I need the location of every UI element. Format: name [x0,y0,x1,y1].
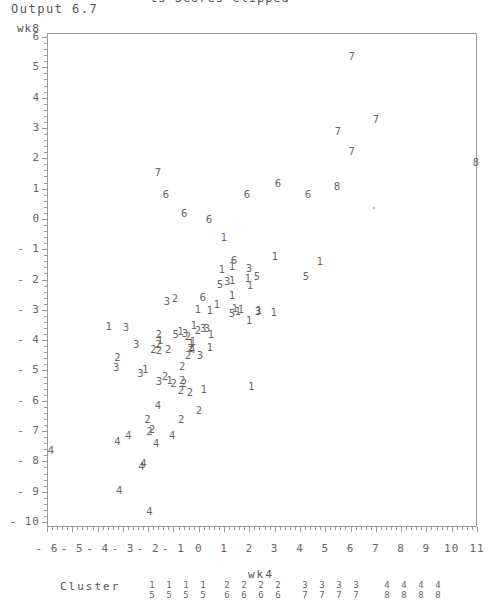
data-point: 1 [271,308,277,318]
y-minor-tick [44,383,47,384]
data-point: 8 [334,182,340,192]
x-minor-tick [118,527,119,530]
y-minor-tick [44,219,47,220]
y-minor-tick [44,407,47,408]
y-minor-tick [44,334,47,335]
x-minor-tick [421,527,422,530]
data-point: 2 [165,345,171,355]
x-minor-tick [386,527,387,530]
data-point: 1 [229,262,235,272]
x-minor-tick [163,527,164,530]
x-minor-tick [148,527,149,530]
y-tick-label: 2 [4,151,40,164]
x-minor-tick [72,527,73,530]
x-minor-tick [462,527,463,530]
data-point: 1 [229,291,235,301]
y-tick-label: - 4 [4,333,40,346]
y-minor-tick [44,322,47,323]
y-minor-tick [44,280,47,281]
data-point: 7 [335,127,341,137]
y-tick-label: - 3 [4,303,40,316]
data-point: 4 [138,462,144,472]
legend-entry: 37 [335,580,343,600]
y-minor-tick [44,110,47,111]
data-point: 1 [201,385,207,395]
x-tick-label: 0 [195,542,203,555]
data-point: 1 [248,382,254,392]
y-minor-tick [44,92,47,93]
x-minor-tick [340,527,341,530]
x-tick-label: - 1 [162,542,185,555]
data-point: 1 [246,316,252,326]
data-point: 6 [181,209,187,219]
x-tick-label: 6 [347,542,355,555]
y-minor-tick [44,140,47,141]
legend-entry-bottom: 6 [274,590,282,600]
y-tick-label: - 2 [4,273,40,286]
y-minor-tick [44,49,47,50]
y-minor-tick [44,267,47,268]
x-minor-tick [477,527,478,530]
output-label: Output 6.7 [11,2,98,16]
legend-entry-bottom: 7 [335,590,343,600]
data-point: 1 [142,365,148,375]
legend-entry-top: 4 [417,580,425,590]
data-point: 4 [116,486,122,496]
data-point: 2 [179,362,185,372]
y-minor-tick [44,425,47,426]
y-minor-tick [44,273,47,274]
y-tick-label: 0 [4,212,40,225]
x-minor-tick [224,527,225,530]
x-minor-tick [254,527,255,530]
data-point: 2 [171,379,177,389]
y-minor-tick [44,249,47,250]
data-point: 5 [217,280,223,290]
x-minor-tick [244,527,245,530]
x-tick-label: - 5 [61,542,84,555]
y-minor-tick [44,370,47,371]
legend-entry-bottom: 7 [352,590,360,600]
data-point: 1 [208,330,214,340]
x-tick-label: - 6 [36,542,59,555]
x-tick-label: 10 [444,542,459,555]
y-minor-tick [44,225,47,226]
x-minor-tick [138,527,139,530]
x-minor-tick [300,527,301,530]
y-minor-tick [44,231,47,232]
legend-entry: 48 [383,580,391,600]
data-point: 2 [178,415,184,425]
x-minor-tick [82,527,83,530]
y-minor-tick [44,73,47,74]
x-minor-tick [351,527,352,530]
y-minor-tick [44,401,47,402]
data-point: 1 [272,252,278,262]
x-minor-tick [204,527,205,530]
y-minor-tick [44,176,47,177]
x-minor-tick [153,527,154,530]
x-minor-tick [194,527,195,530]
y-minor-tick [44,492,47,493]
data-point: 1 [221,233,227,243]
legend-entry-top: 1 [199,580,207,590]
data-point: 3 [164,297,170,307]
y-minor-tick [44,504,47,505]
data-point: 1 [219,265,225,275]
y-minor-tick [44,340,47,341]
data-point: 2 [185,351,191,361]
data-point: 6 [305,190,311,200]
y-minor-tick [44,134,47,135]
legend-entry: 48 [400,580,408,600]
legend-entry-bottom: 5 [182,590,190,600]
y-minor-tick [44,377,47,378]
data-point: 2 [178,386,184,396]
x-minor-tick [290,527,291,530]
data-point: 4 [169,431,175,441]
data-point: 2 [156,346,162,356]
x-minor-tick [396,527,397,530]
y-minor-tick [44,516,47,517]
legend-entry-bottom: 6 [257,590,265,600]
x-tick-label: - 4 [86,542,109,555]
legend-entry-top: 1 [182,580,190,590]
x-minor-tick [133,527,134,530]
y-minor-tick [44,498,47,499]
